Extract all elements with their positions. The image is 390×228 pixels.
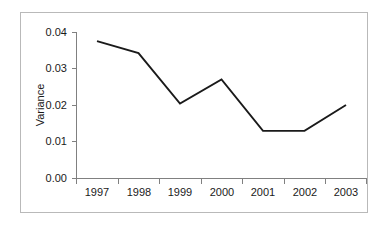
y-tick-label-0.03: 0.03	[46, 62, 67, 74]
line-chart: 0.04 0.03 0.02 0.01 0.00 Variance 1997 1…	[0, 0, 390, 228]
chart-canvas: 0.04 0.03 0.02 0.01 0.00 Variance 1997 1…	[0, 0, 390, 228]
y-tick-label-0.00: 0.00	[46, 172, 67, 184]
y-axis-title: Variance	[34, 84, 46, 127]
y-tick-label-0.04: 0.04	[46, 26, 67, 38]
x-tick-label-1997: 1997	[85, 186, 109, 198]
x-tick-label-1999: 1999	[168, 186, 192, 198]
x-tick-label-1998: 1998	[127, 186, 151, 198]
y-tick-label-0.02: 0.02	[46, 99, 67, 111]
x-axis-group: 1997 1998 1999 2000 2001 2002 2003	[77, 179, 367, 199]
data-line-variance	[97, 41, 346, 131]
x-tick-label-2002: 2002	[293, 186, 317, 198]
y-axis-group: 0.04 0.03 0.02 0.01 0.00 Variance	[34, 26, 77, 184]
x-tick-label-2001: 2001	[251, 186, 275, 198]
y-tick-label-0.01: 0.01	[46, 135, 67, 147]
x-tick-label-2000: 2000	[210, 186, 234, 198]
plot-series-group	[97, 41, 346, 131]
x-tick-label-2003: 2003	[334, 186, 358, 198]
